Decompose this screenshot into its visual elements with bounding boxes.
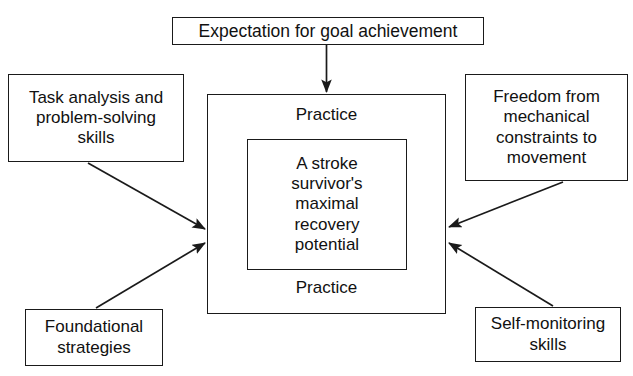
box-task-analysis-label: Task analysis and problem-solving skills [9, 88, 183, 148]
box-self-monitoring-skills[interactable]: Self-monitoring skills [475, 307, 621, 362]
box-task-analysis-and-problem-solving-skills[interactable]: Task analysis and problem-solving skills [8, 74, 184, 162]
arrow-foundational-to-center [96, 243, 205, 308]
box-core-label: A stroke survivor's maximal recovery pot… [248, 154, 406, 254]
box-freedom-label: Freedom from mechanical constraints to m… [466, 87, 627, 167]
arrow-self-monitoring-to-center [449, 243, 553, 306]
box-freedom-from-mechanical-constraints[interactable]: Freedom from mechanical constraints to m… [465, 74, 628, 181]
box-foundational-strategies[interactable]: Foundational strategies [25, 309, 163, 366]
box-self-monitoring-label: Self-monitoring skills [476, 314, 620, 354]
arrow-task-analysis-to-center [88, 163, 205, 229]
box-expectation-label: Expectation for goal achievement [173, 21, 483, 42]
arrow-freedom-to-center [449, 182, 563, 227]
practice-label-top: Practice [207, 105, 446, 125]
box-core-stroke-survivor-recovery-potential[interactable]: A stroke survivor's maximal recovery pot… [247, 139, 407, 270]
box-expectation-for-goal-achievement[interactable]: Expectation for goal achievement [172, 17, 484, 45]
practice-label-bottom: Practice [207, 278, 446, 298]
box-foundational-label: Foundational strategies [26, 317, 162, 357]
diagram-canvas: Expectation for goal achievement Task an… [0, 0, 633, 376]
